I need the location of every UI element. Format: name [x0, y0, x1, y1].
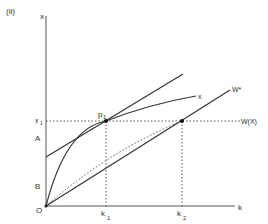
- x1-subscript: 1: [40, 120, 43, 126]
- point-k2: [180, 119, 184, 123]
- a-label: A: [35, 134, 41, 143]
- point-origin: [45, 205, 48, 208]
- w-star-label: W*: [232, 86, 242, 93]
- x-axis-label: k: [238, 203, 243, 212]
- panel-label: (ii): [6, 7, 15, 16]
- k2-subscript: 2: [183, 215, 187, 221]
- production-curve: [46, 96, 196, 206]
- k1-subscript: 1: [107, 215, 111, 221]
- y-axis-label: x: [40, 12, 44, 21]
- tangent-line: [46, 74, 183, 157]
- production-curve-label: x: [198, 93, 202, 100]
- k2-label: k: [177, 209, 182, 218]
- k1-label: k: [101, 209, 106, 218]
- b-label: B: [35, 182, 40, 191]
- origin-label: O: [36, 206, 42, 215]
- diagram-canvas: (ii) x k O x 1 A B k 1 k 2 p 1 x W* W(X): [0, 0, 268, 224]
- w-star-line: [46, 90, 230, 206]
- x1-label: x: [35, 117, 39, 124]
- wx-label: W(X): [241, 118, 257, 126]
